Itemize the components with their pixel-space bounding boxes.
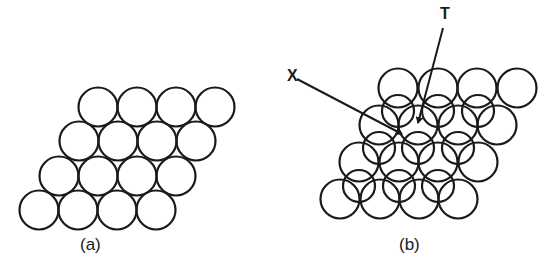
sphere [157, 88, 196, 127]
sphere [40, 157, 79, 196]
caption-b: (b) [399, 235, 420, 254]
sphere [60, 122, 99, 161]
sphere [157, 157, 196, 196]
sphere [99, 122, 138, 161]
sphere [79, 88, 118, 127]
caption-a: (a) [80, 235, 101, 254]
sphere [118, 88, 157, 127]
single-layer [20, 88, 235, 230]
sphere [321, 180, 360, 219]
close-packing-diagram: XT (a) (b) [0, 0, 556, 273]
sphere [138, 122, 177, 161]
sphere [439, 180, 478, 219]
panel-b-two-layers [321, 69, 537, 219]
sphere [196, 88, 235, 127]
label-x: X [287, 67, 298, 84]
sphere [498, 69, 537, 108]
sphere [59, 191, 98, 230]
site-annotations: XT [287, 5, 450, 134]
sphere [79, 157, 118, 196]
sphere [118, 157, 157, 196]
bottom-layer [321, 69, 537, 219]
sphere [137, 191, 176, 230]
sphere [400, 180, 439, 219]
sphere [98, 191, 137, 230]
sphere [20, 191, 59, 230]
sphere [177, 122, 216, 161]
panel-a-single-layer [20, 88, 235, 230]
label-t: T [440, 5, 450, 22]
